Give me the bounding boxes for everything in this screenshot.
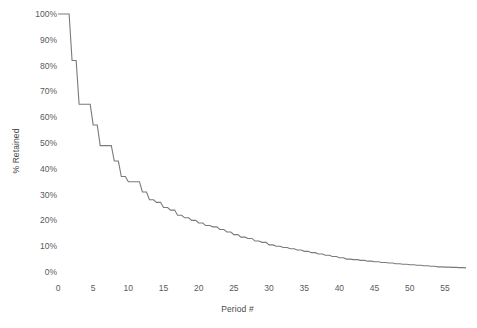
x-axis-title: Period # — [0, 304, 477, 314]
plot-area — [0, 0, 477, 328]
x-axis-title-text: Period # — [221, 304, 255, 314]
retention-chart: % Retained 0%10%20%30%40%50%60%70%80%90%… — [0, 0, 477, 328]
retention-line — [58, 14, 466, 268]
